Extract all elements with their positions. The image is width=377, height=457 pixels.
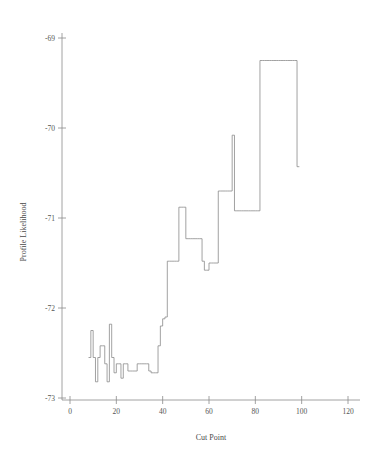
data-series-line: [89, 61, 300, 382]
y-tick-label: -69: [45, 34, 55, 43]
y-tick-label: -72: [45, 304, 55, 313]
x-tick-label: 20: [113, 407, 121, 416]
x-tick-label: 60: [205, 407, 213, 416]
chart-canvas: -69-70-71-72-73 020406080100120 Cut Poin…: [0, 0, 377, 457]
y-tick-label: -70: [45, 124, 55, 133]
x-axis-title: Cut Point: [196, 433, 227, 442]
y-tick-label: -73: [45, 394, 55, 403]
x-tick-label: 100: [296, 407, 308, 416]
x-tick-label: 40: [159, 407, 167, 416]
x-axis-ticks: 020406080100120: [68, 396, 354, 416]
x-tick-label: 80: [252, 407, 260, 416]
profile-likelihood-chart: -69-70-71-72-73 020406080100120 Cut Poin…: [0, 0, 377, 457]
y-axis-title: Profile Likelihood: [19, 203, 28, 262]
y-axis-ticks: -69-70-71-72-73: [45, 34, 66, 403]
x-tick-label: 120: [342, 407, 354, 416]
x-tick-label: 0: [68, 407, 72, 416]
y-tick-label: -71: [45, 214, 55, 223]
